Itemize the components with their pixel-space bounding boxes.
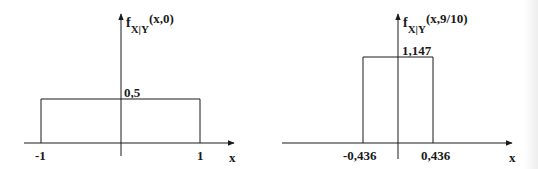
left-title-f: f: [126, 15, 131, 30]
right-tick-minus: -0,436: [343, 149, 377, 162]
right-chart: [282, 14, 512, 159]
right-title-f: f: [403, 15, 408, 30]
left-title-subscript: X|Y: [131, 23, 149, 35]
right-tick-plus: 0,436: [421, 149, 450, 162]
right-title-argument: (x,9/10): [426, 11, 468, 26]
right-x-axis-label: x: [509, 151, 516, 164]
right-height-label: 1,147: [402, 44, 431, 57]
left-tick-one: 1: [197, 149, 204, 162]
left-chart-title: fX|Y(x,0): [126, 16, 174, 30]
right-title-subscript: X|Y: [408, 23, 426, 35]
left-height-label: 0,5: [124, 86, 140, 99]
left-title-argument: (x,0): [149, 11, 174, 26]
left-tick-minus-one: -1: [35, 149, 46, 162]
right-chart-title: fX|Y(x,9/10): [403, 16, 468, 30]
left-x-axis-label: x: [229, 151, 236, 164]
scan-edge-shadow: [524, 0, 538, 169]
